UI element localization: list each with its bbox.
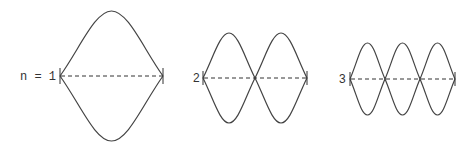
label-n3: 3	[339, 72, 346, 86]
wave-lower-n3	[350, 79, 455, 115]
wave-upper-n1	[60, 11, 163, 76]
standing-wave-n3: 3	[339, 43, 455, 115]
label-n2: 2	[193, 71, 200, 85]
wave-lower-n2	[203, 78, 307, 123]
wave-upper-n2	[203, 33, 307, 78]
wave-upper-n3	[350, 43, 455, 79]
standing-wave-n2: 2	[193, 33, 307, 123]
wave-lower-n1	[60, 76, 163, 141]
standing-wave-diagrams: n = 1 2 3	[0, 0, 476, 151]
standing-wave-n1: n = 1	[20, 11, 163, 141]
label-n1: n = 1	[20, 70, 56, 84]
